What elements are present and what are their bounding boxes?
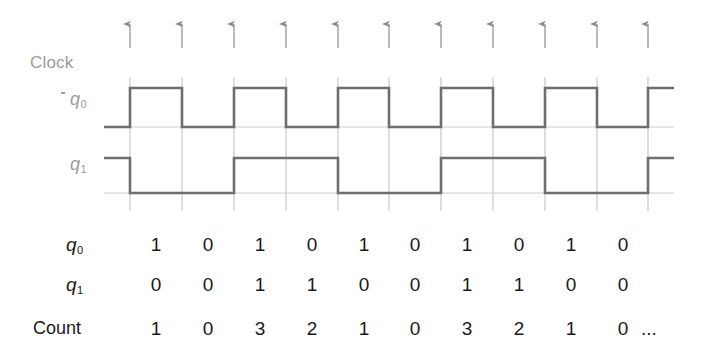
timing-diagram-figure: Clock q0 q1 q0 q1 Count 1 0 1 0 1 0 1 0 … <box>0 0 707 364</box>
cell-value: 1 <box>456 274 478 296</box>
cell-value: 2 <box>508 318 530 340</box>
cell-value: 3 <box>456 318 478 340</box>
q0-waveform <box>104 88 674 127</box>
table-row-label-count: Count <box>33 318 81 339</box>
cell-value: 1 <box>301 274 323 296</box>
cell-value: 0 <box>197 234 219 256</box>
cell-value: 0 <box>404 274 426 296</box>
clock-label: Clock <box>30 54 74 71</box>
cell-value: 1 <box>560 234 582 256</box>
table-row-label-q1: q1 <box>66 274 83 296</box>
cell-value: 0 <box>508 234 530 256</box>
cell-value: 1 <box>353 234 375 256</box>
waveform-canvas <box>0 0 707 364</box>
q0-tick-mark <box>61 92 65 94</box>
cell-value: 1 <box>560 318 582 340</box>
cell-value: 0 <box>301 234 323 256</box>
q0-waveform-label-subscript: 0 <box>80 98 87 110</box>
table-row-label-q1-text: q <box>66 274 77 295</box>
cell-value: 1 <box>353 318 375 340</box>
cell-value: 2 <box>301 318 323 340</box>
table-row-label-q1-subscript: 1 <box>77 284 84 296</box>
q1-waveform-label-subscript: 1 <box>80 163 87 175</box>
cell-value: 0 <box>612 318 634 340</box>
cell-value: 0 <box>404 318 426 340</box>
cell-value: 1 <box>456 234 478 256</box>
q0-waveform-label: q0 <box>70 90 87 110</box>
cell-value: 1 <box>145 318 167 340</box>
q1-waveform-label: q1 <box>70 155 87 175</box>
count-ellipsis: ... <box>641 318 657 340</box>
cell-value: 3 <box>249 318 271 340</box>
table-row-label-q0: q0 <box>66 234 83 256</box>
q1-waveform-label-text: q <box>70 154 80 174</box>
cell-value: 1 <box>249 234 271 256</box>
cell-value: 0 <box>145 274 167 296</box>
cell-value: 0 <box>197 274 219 296</box>
cell-value: 0 <box>560 274 582 296</box>
cell-value: 1 <box>508 274 530 296</box>
cell-value: 0 <box>353 274 375 296</box>
cell-value: 0 <box>612 274 634 296</box>
q0-waveform-label-text: q <box>70 89 80 109</box>
table-row-label-q0-subscript: 0 <box>77 244 84 256</box>
cell-value: 0 <box>197 318 219 340</box>
clock-arrows-group <box>130 24 648 48</box>
cell-value: 0 <box>612 234 634 256</box>
cell-value: 0 <box>404 234 426 256</box>
cell-value: 1 <box>249 274 271 296</box>
cell-value: 1 <box>145 234 167 256</box>
table-row-label-q0-text: q <box>66 234 77 255</box>
